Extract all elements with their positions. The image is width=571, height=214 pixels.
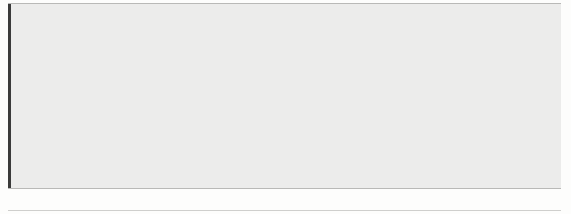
panel-bottom-rule xyxy=(8,188,561,189)
caption-bottom-rule xyxy=(8,210,561,211)
figure-container xyxy=(0,0,571,214)
legend xyxy=(17,162,45,174)
figure-panel xyxy=(8,4,561,188)
